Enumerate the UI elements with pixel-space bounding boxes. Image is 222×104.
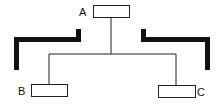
left-bracket — [14, 29, 81, 70]
node-a-label: A — [79, 6, 87, 18]
node-c-label: C — [197, 86, 205, 98]
node-b-box — [32, 85, 68, 97]
node-c-box — [159, 86, 196, 98]
connectors — [49, 17, 176, 85]
node-b-label: B — [18, 85, 25, 97]
tree-diagram: A B C — [0, 0, 222, 104]
node-a-box — [94, 6, 130, 18]
